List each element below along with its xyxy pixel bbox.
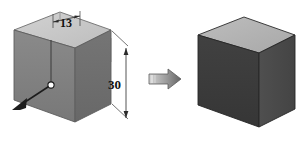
diagram-svg: 13 30: [0, 0, 308, 166]
dim30-arrowhead-top: [124, 48, 129, 55]
right-figure-solid-box: [198, 17, 295, 127]
dim30-extension-top: [112, 31, 128, 46]
dim30-label: 30: [108, 77, 121, 92]
origin-point-marker-icon: [48, 82, 54, 88]
arrow-shape: [149, 69, 181, 89]
left-figure-dimensioned-box: 13 30: [12, 11, 128, 122]
dim13-label: 13: [60, 16, 72, 30]
transformation-arrow-icon: [149, 69, 181, 89]
diagram-canvas: 13 30: [0, 0, 308, 166]
dim30-arrowhead-bottom: [124, 111, 129, 118]
